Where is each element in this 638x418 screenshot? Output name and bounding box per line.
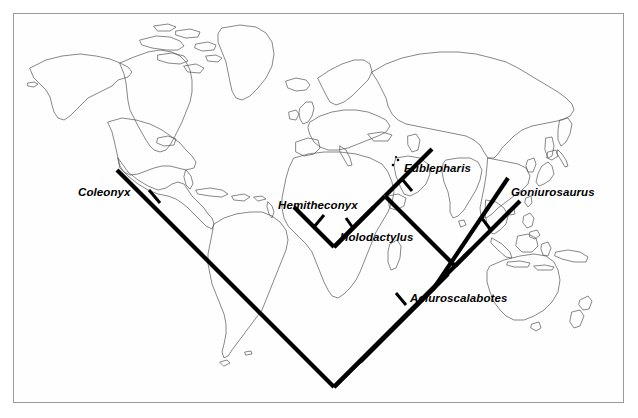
map-region-new-zealand-north (579, 296, 592, 310)
map-region-scandinavia (318, 60, 372, 105)
map-region-united-states (108, 118, 196, 175)
map-region-sulawesi (541, 242, 551, 256)
map-region-arctic-islands-e (184, 64, 204, 73)
taxon-label-eublepharis: Eublepharis (404, 162, 471, 174)
map-region-aleutians (28, 82, 38, 87)
branch-goniurosaurus-main (434, 178, 508, 288)
map-region-borneo (516, 234, 538, 252)
map-region-alaska (30, 54, 132, 120)
map-region-kamchatka (558, 118, 572, 146)
map-region-madagascar (388, 240, 401, 270)
map-region-arctic-islands-d (195, 42, 216, 51)
map-region-africa (282, 152, 394, 298)
taxon-label-holodactylus: Holodactylus (340, 231, 413, 243)
figure-root: Coleonyx Hemitheconyx Holodactylus Euble… (0, 0, 638, 418)
map-region-arctic-islands-g (154, 24, 176, 31)
map-region-cuba (196, 188, 228, 197)
tick-eublepharis (402, 179, 412, 191)
map-region-ireland (289, 110, 299, 120)
map-region-arctic-islands-c (176, 29, 200, 38)
map-region-iceland (286, 78, 310, 91)
map-region-tasmania (531, 322, 541, 331)
tick-aeluroscalabotes (396, 293, 406, 305)
map-region-arctic-islands-f (206, 55, 222, 62)
map-region-arctic-islands-a (140, 36, 184, 50)
map-region-kurils (557, 150, 568, 167)
map-region-new-zealand-south (570, 310, 584, 328)
map-region-philippines (523, 213, 534, 228)
map-region-new-guinea (555, 250, 588, 262)
tick-holodactylus (346, 218, 353, 228)
map-region-sri-lanka (459, 220, 466, 227)
map-region-arctic-islands-b (158, 53, 188, 64)
map-region-korea (526, 158, 536, 172)
tick-goniurosaurus (481, 217, 490, 229)
map-region-australia (487, 254, 560, 320)
tick-hemitheconyx (314, 215, 324, 227)
map-region-sakhalin (545, 137, 554, 158)
taxon-label-hemitheconyx: Hemitheconyx (278, 199, 358, 211)
taxon-label-aeluroscalabotes: Aeluroscalabotes (410, 292, 507, 304)
map-region-northern-asia (372, 52, 574, 158)
map-region-tierra-del-fuego (220, 360, 230, 366)
map-region-caspian-sea (408, 134, 420, 152)
map-region-falklands (245, 351, 252, 355)
map-region-black-sea (368, 132, 392, 141)
map-region-canada (120, 50, 192, 152)
map-region-sumatra (491, 238, 512, 258)
map-region-south-america (208, 212, 288, 358)
map-region-hispaniola (232, 194, 250, 201)
map-region-europe (308, 110, 390, 150)
map-region-greenland (218, 25, 274, 100)
map-region-lesser-sundas (534, 265, 554, 270)
map-region-japan (536, 162, 554, 186)
map-region-lesser-antilles (254, 196, 266, 201)
map-region-java (507, 261, 530, 267)
taxon-label-goniurosaurus: Goniurosaurus (511, 186, 595, 198)
taxon-label-coleonyx: Coleonyx (78, 186, 131, 198)
